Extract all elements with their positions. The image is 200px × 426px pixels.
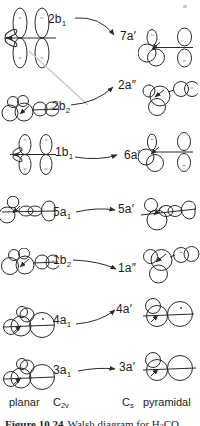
correlation-arrow-1b1-to-6a xyxy=(73,148,121,162)
label-1b1: 1b1 xyxy=(55,146,73,161)
orbital-sketch-1b2 xyxy=(1,248,59,284)
label-1b2: 1b2 xyxy=(53,254,71,269)
label-1a-doubleprime: 1a″ xyxy=(118,262,136,274)
orbital-sketch-6a-prime xyxy=(138,129,198,175)
label-5a1: 5a1 xyxy=(53,206,71,221)
label-4a-prime: 4a′ xyxy=(116,303,132,315)
orbital-sketch-2a-doubleprime xyxy=(140,79,198,119)
correlation-arrow-3a1-to-3a xyxy=(76,362,118,376)
correlation-arrow-2b1-to-7a xyxy=(72,14,118,40)
label-3a1: 3a1 xyxy=(53,364,71,379)
footer-label-c2v: C2v xyxy=(53,396,69,410)
label-3a-prime: 3a′ xyxy=(119,361,135,373)
orbital-sketch-3a-prime xyxy=(140,352,198,388)
walsh-diagram-figure: 2b1 7a′ xyxy=(0,0,200,426)
label-2b1: 2b1 xyxy=(48,13,66,28)
correlation-arrow-4a1-to-4a xyxy=(74,305,118,327)
correlation-arrow-2b2-to-2a xyxy=(66,82,118,108)
label-7a-prime: 7a′ xyxy=(120,30,136,42)
orbital-sketch-2b2 xyxy=(1,95,59,129)
orbital-sketch-1b1 xyxy=(10,132,58,178)
footer-label-planar: planar xyxy=(9,396,40,408)
label-2a-doubleprime: 2a″ xyxy=(118,79,136,91)
orbital-sketch-4a-prime xyxy=(140,298,198,334)
orbital-sketch-4a1 xyxy=(2,306,56,344)
footer-label-cs: Cs xyxy=(122,396,134,410)
orbital-sketch-7a-prime xyxy=(138,26,198,70)
orbital-sketch-5a-prime xyxy=(136,196,200,236)
scan-artifact-dot xyxy=(183,5,187,8)
correlation-arrow-1b2-to-1a xyxy=(71,255,119,273)
orbital-sketch-3a1 xyxy=(2,358,56,396)
correlation-arrow-5a1-to-5a xyxy=(74,202,118,216)
orbital-sketch-5a1 xyxy=(0,196,56,228)
footer-label-pyramidal: pyramidal xyxy=(143,396,191,408)
label-4a1: 4a1 xyxy=(53,314,71,329)
figure-caption-clipped: Figure 10.24Walsh diagram for H2CO xyxy=(5,415,197,426)
label-5a-prime: 5a′ xyxy=(118,203,134,215)
orbital-sketch-1a-doubleprime xyxy=(140,244,200,286)
